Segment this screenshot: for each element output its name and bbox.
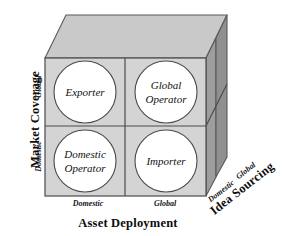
cell-label-global-operator-line1: Global <box>151 79 182 91</box>
tick-asset-deployment-global: Global <box>140 199 190 208</box>
tick-market-coverage-global: Global <box>34 57 43 117</box>
cell-label-exporter: Exporter <box>64 86 105 98</box>
cube-diagram: Exporter Global Operator Domestic Operat… <box>0 0 285 236</box>
tick-asset-deployment-domestic: Domestic <box>58 199 118 208</box>
cell-circle-global-operator <box>135 61 197 123</box>
cell-label-importer: Importer <box>145 155 186 167</box>
cell-circle-domestic-operator <box>54 130 116 192</box>
cell-label-global-operator-line2: Operator <box>146 93 188 105</box>
axis-label-asset-deployment: Asset Deployment <box>63 216 193 231</box>
cell-label-domestic-operator-line1: Domestic <box>63 148 106 160</box>
cube-top-face <box>45 15 227 58</box>
cell-label-domestic-operator-line2: Operator <box>65 162 107 174</box>
tick-market-coverage-domestic: Domestic <box>34 121 43 193</box>
